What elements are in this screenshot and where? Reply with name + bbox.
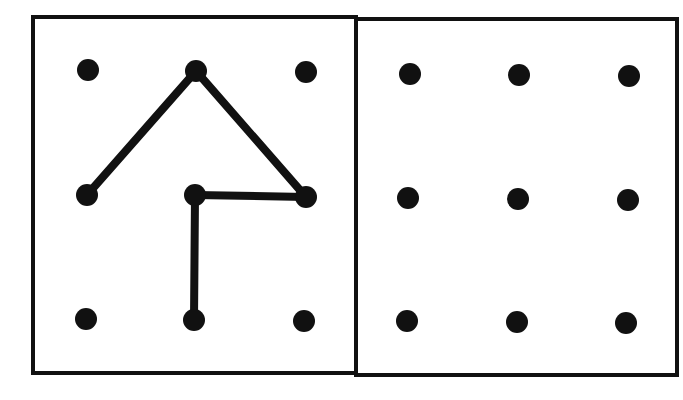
diagram-canvas [0, 0, 683, 400]
grid-dot [295, 186, 317, 208]
grid-dot [397, 187, 419, 209]
panel-left [33, 17, 356, 373]
grid-dot [617, 189, 639, 211]
grid-dot [396, 310, 418, 332]
grid-dot [75, 308, 97, 330]
grid-dot [508, 64, 530, 86]
grid-dot [615, 312, 637, 334]
grid-dot [507, 188, 529, 210]
dot-grid-diagram [0, 0, 683, 400]
panel-right [356, 19, 677, 375]
grid-dot [399, 63, 421, 85]
grid-dot [76, 184, 98, 206]
grid-dot [185, 60, 207, 82]
grid-dot [183, 309, 205, 331]
line-segment [196, 71, 306, 197]
line-segment [194, 195, 195, 320]
line-segment [87, 71, 196, 195]
line-segment [195, 195, 306, 197]
grid-dot [618, 65, 640, 87]
grid-dot [506, 311, 528, 333]
grid-dot [77, 59, 99, 81]
grid-dot [295, 61, 317, 83]
grid-dot [293, 310, 315, 332]
grid-dot [184, 184, 206, 206]
